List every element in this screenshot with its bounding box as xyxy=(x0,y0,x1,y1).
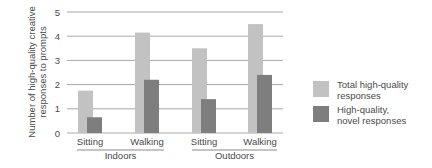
x-group-label: Outdoors xyxy=(215,150,254,161)
x-group-label: Indoors xyxy=(105,150,137,161)
y-tick-label: 3 xyxy=(55,55,60,66)
legend-label: Total high-quality xyxy=(337,79,409,90)
bar-chart: Number of high-quality creative response… xyxy=(0,0,432,168)
x-category-label: Walking xyxy=(243,136,276,147)
x-category-labels: SittingWalkingSittingWalking xyxy=(77,136,277,147)
legend: Total high-qualityresponsesHigh-quality,… xyxy=(313,79,409,126)
bar-novel xyxy=(201,99,216,133)
legend-label: novel responses xyxy=(337,115,406,126)
x-category-label: Walking xyxy=(130,136,163,147)
y-tick-label: 0 xyxy=(55,128,60,139)
x-group-labels: IndoorsOutdoors xyxy=(77,150,277,161)
y-tick-label: 1 xyxy=(55,103,60,114)
y-tick-label: 2 xyxy=(55,79,60,90)
bar-novel xyxy=(144,80,159,133)
x-category-label: Sitting xyxy=(191,136,217,147)
bar-novel xyxy=(87,117,102,133)
y-tick-label: 5 xyxy=(55,7,60,18)
x-category-label: Sitting xyxy=(77,136,103,147)
legend-label: High-quality, xyxy=(337,104,389,115)
y-tick-labels: 012345 xyxy=(55,7,60,139)
legend-label: responses xyxy=(337,90,381,101)
bar-novel xyxy=(257,75,272,133)
y-axis-label-line-2: responses to prompts xyxy=(37,26,48,118)
legend-swatch xyxy=(313,81,329,97)
y-tick-label: 4 xyxy=(55,31,60,42)
legend-swatch xyxy=(313,106,329,122)
bars xyxy=(78,24,272,133)
y-axis-label: Number of high-quality creative response… xyxy=(26,6,48,137)
y-axis-label-line-1: Number of high-quality creative xyxy=(26,6,37,137)
